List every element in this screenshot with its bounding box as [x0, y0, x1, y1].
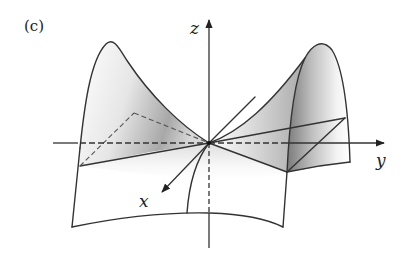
- x-axis-label: x: [139, 191, 149, 211]
- y-axis-label: y: [375, 150, 386, 170]
- origin-point: [207, 141, 211, 145]
- z-axis-label: z: [189, 18, 200, 38]
- saddle-surface-diagram: (c) z y x: [0, 0, 414, 263]
- panel-label: (c): [24, 17, 44, 35]
- right-lower-edge: [283, 172, 287, 227]
- right-saddle-lobe: [287, 44, 350, 172]
- bottom-front-edge: [72, 213, 283, 227]
- left-edge: [72, 148, 80, 227]
